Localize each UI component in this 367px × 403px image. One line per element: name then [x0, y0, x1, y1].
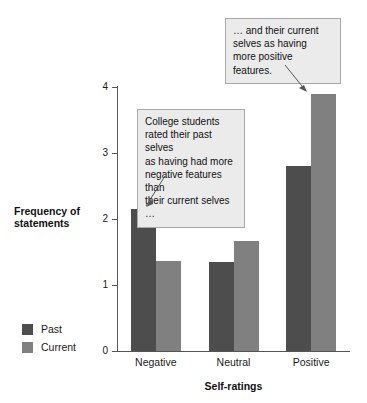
bar-positive-current: [311, 94, 336, 351]
y-axis-title: Frequency of statements: [14, 205, 110, 229]
x-axis-title: Self-ratings: [117, 380, 350, 392]
legend-item-past: Past: [22, 321, 76, 337]
legend-swatch-past-icon: [22, 324, 33, 335]
x-axis-line: [117, 351, 350, 352]
annotation-line: their current selves …: [145, 194, 237, 220]
bar-negative-current: [156, 261, 181, 351]
annotation-line: selves as having: [233, 37, 333, 50]
annotation-line: more positive features.: [233, 50, 333, 76]
legend-swatch-current-icon: [22, 342, 33, 353]
y-tick-label: 4: [68, 82, 108, 92]
y-tick-label: 3: [68, 148, 108, 158]
annotation-line: College students: [145, 115, 237, 128]
legend-label-past: Past: [41, 323, 62, 335]
annotation-line: negative features than: [145, 168, 237, 194]
bar-neutral-past: [209, 262, 234, 351]
y-tick-mark: [112, 351, 117, 352]
x-tick-label-negative: Negative: [116, 356, 196, 368]
bar-chart-figure: 01234 NegativeNeutralPositive Frequency …: [0, 0, 367, 403]
x-tick-label-positive: Positive: [271, 356, 351, 368]
legend-label-current: Current: [41, 341, 76, 353]
bar-negative-past: [131, 209, 156, 351]
annotation-callout-current: … and their current selves as having mor…: [225, 18, 341, 84]
bar-positive-past: [286, 166, 311, 351]
chart-legend: Past Current: [22, 321, 76, 357]
y-tick-label: 1: [68, 280, 108, 290]
bar-neutral-current: [234, 241, 259, 351]
legend-item-current: Current: [22, 339, 76, 355]
annotation-line: rated their past selves: [145, 128, 237, 154]
x-tick-label-neutral: Neutral: [194, 356, 274, 368]
annotation-callout-past: College students rated their past selves…: [137, 109, 245, 228]
annotation-line: … and their current: [233, 24, 333, 37]
annotation-line: as having had more: [145, 155, 237, 168]
